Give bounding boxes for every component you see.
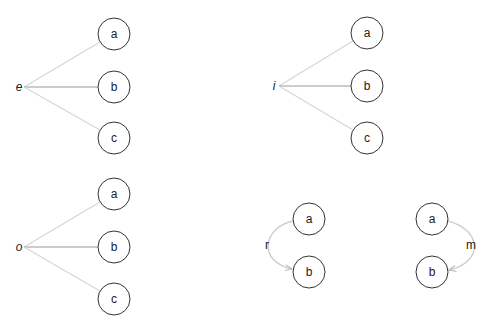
node-m-b[interactable]: b bbox=[416, 256, 448, 288]
source-label-o: o bbox=[16, 240, 23, 254]
node-label: a bbox=[429, 212, 436, 226]
node-label: b bbox=[429, 265, 436, 279]
node-e-a[interactable]: a bbox=[98, 18, 130, 50]
edge-e-c bbox=[24, 87, 100, 130]
node-e-b[interactable]: b bbox=[98, 71, 130, 103]
arc-group-r: r a b bbox=[265, 203, 325, 288]
node-r-a[interactable]: a bbox=[293, 203, 325, 235]
node-label: a bbox=[111, 187, 118, 201]
node-o-a[interactable]: a bbox=[98, 178, 130, 210]
fan-group-e: e a b c bbox=[16, 18, 130, 154]
edge-e-a bbox=[24, 42, 100, 87]
node-i-b[interactable]: b bbox=[351, 70, 383, 102]
node-label: a bbox=[364, 26, 371, 40]
node-o-b[interactable]: b bbox=[98, 231, 130, 263]
node-label: c bbox=[111, 131, 117, 145]
edge-r-a-b bbox=[268, 221, 293, 269]
edge-o-a bbox=[24, 202, 100, 247]
node-label: a bbox=[306, 212, 313, 226]
edge-label-m: m bbox=[466, 238, 476, 252]
node-label: b bbox=[306, 265, 313, 279]
fan-group-i: i a b c bbox=[273, 17, 383, 154]
node-e-c[interactable]: c bbox=[98, 122, 130, 154]
edge-i-c bbox=[279, 86, 353, 130]
diagram-canvas: e a b c i a b c bbox=[0, 0, 498, 330]
node-label: b bbox=[364, 79, 371, 93]
node-i-c[interactable]: c bbox=[351, 122, 383, 154]
source-label-e: e bbox=[16, 80, 23, 94]
fan-group-o: o a b c bbox=[16, 178, 130, 315]
node-label: b bbox=[111, 80, 118, 94]
node-label: b bbox=[111, 240, 118, 254]
node-i-a[interactable]: a bbox=[351, 17, 383, 49]
node-label: a bbox=[111, 27, 118, 41]
edge-i-a bbox=[279, 41, 353, 86]
arc-group-m: m a b bbox=[416, 203, 476, 288]
edge-o-c bbox=[24, 247, 100, 291]
node-m-a[interactable]: a bbox=[416, 203, 448, 235]
source-label-i: i bbox=[273, 79, 276, 93]
node-label: c bbox=[111, 292, 117, 306]
node-o-c[interactable]: c bbox=[98, 283, 130, 315]
edge-label-r: r bbox=[265, 238, 269, 252]
node-label: c bbox=[364, 131, 370, 145]
node-r-b[interactable]: b bbox=[293, 256, 325, 288]
